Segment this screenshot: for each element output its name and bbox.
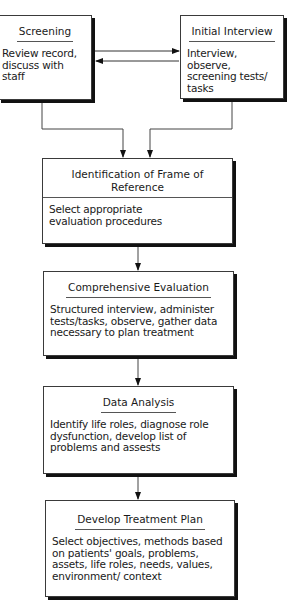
node-screening: Screening Review record, discuss with st… [0, 15, 92, 100]
node-title: Comprehensive Evaluation [66, 281, 211, 298]
node-data-analysis: Data Analysis Identify life roles, diagn… [43, 386, 234, 474]
node-text: Select objectives, methods based on pati… [46, 530, 234, 582]
arrow-interview-to-frame [150, 101, 232, 157]
node-title: Initial Interview [189, 25, 274, 42]
node-text: Interview, observe, screening tests/ tas… [181, 42, 283, 94]
node-title: Develop Treatment Plan [75, 513, 205, 530]
node-text: Structured interview, administer tests/t… [44, 298, 233, 339]
node-title: Screening [17, 25, 73, 42]
node-initial-interview: Initial Interview Interview, observe, sc… [180, 15, 284, 99]
node-text: Select appropriate evaluation procedures [43, 198, 232, 227]
node-frame-of-reference: Identification of Frame of Reference Sel… [42, 158, 233, 244]
arrow-screening-to-frame [42, 102, 123, 157]
node-comprehensive-evaluation: Comprehensive Evaluation Structured inte… [43, 271, 234, 356]
node-title: Identification of Frame of Reference [43, 168, 232, 198]
node-text: Review record, discuss with staff [0, 42, 91, 83]
node-text: Identify life roles, diagnose role dysfu… [44, 413, 233, 454]
node-treatment-plan: Develop Treatment Plan Select objectives… [45, 500, 235, 597]
node-title: Data Analysis [101, 396, 177, 413]
